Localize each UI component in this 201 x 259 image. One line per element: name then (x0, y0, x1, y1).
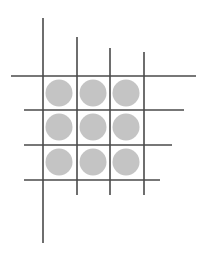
circle-group (46, 80, 140, 176)
circle-5 (80, 114, 107, 141)
circle-3 (113, 80, 140, 107)
circle-2 (80, 80, 107, 107)
circle-6 (113, 114, 140, 141)
circle-7 (46, 149, 73, 176)
grid-circles-diagram (0, 0, 201, 259)
circle-8 (80, 149, 107, 176)
circle-1 (46, 80, 73, 107)
circle-4 (46, 114, 73, 141)
circle-9 (113, 149, 140, 176)
